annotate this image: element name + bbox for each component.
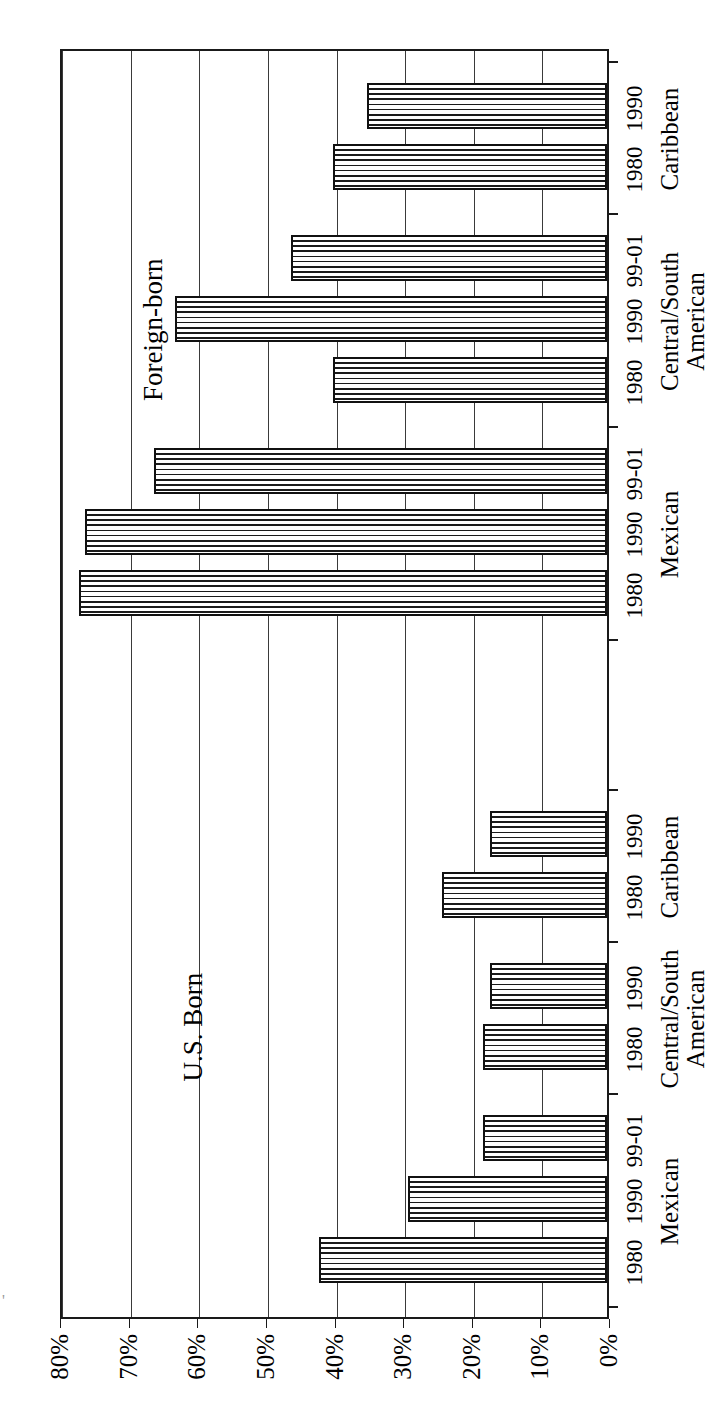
value-axis-tick [197, 1319, 198, 1328]
bar [490, 812, 607, 858]
value-axis-tick [540, 1319, 541, 1328]
bar [333, 145, 608, 191]
bar [291, 236, 607, 282]
category-period-label: 1990 [623, 65, 646, 152]
category-period-label: 1990 [623, 945, 646, 1032]
section-caption: Foreign-born [140, 240, 167, 420]
plot-area: U.S. BornForeign-born [60, 49, 609, 1319]
value-axis-label: 10% [527, 1334, 552, 1408]
value-axis-label: 70% [116, 1334, 141, 1408]
bar [442, 873, 607, 919]
bar [175, 297, 607, 343]
value-axis-label: 0% [596, 1334, 621, 1408]
category-period-label: 99-01 [623, 430, 646, 517]
category-axis-tick [609, 214, 618, 216]
bar [79, 571, 607, 617]
value-axis-tick [403, 1319, 404, 1328]
category-group-label: Caribbean [657, 24, 683, 254]
bar [483, 1116, 607, 1162]
bar [154, 449, 607, 495]
category-period-label: 99-01 [623, 1097, 646, 1184]
category-axis-tick [609, 942, 618, 944]
bar [408, 1177, 607, 1223]
value-axis-tick [60, 1319, 61, 1328]
value-axis-tick [472, 1319, 473, 1328]
value-axis-tick [335, 1319, 336, 1328]
gridline [62, 51, 63, 1317]
group-label-line: American [683, 207, 709, 437]
bar [490, 964, 607, 1010]
bar [483, 1025, 607, 1071]
value-axis-tick [129, 1319, 130, 1328]
bar [333, 358, 608, 404]
category-axis-tick [609, 1094, 618, 1096]
bar [367, 84, 607, 130]
value-axis-label: 80% [47, 1334, 72, 1408]
gridline [131, 51, 132, 1317]
category-axis-tick [609, 640, 618, 642]
section-caption: U.S. Born [180, 937, 207, 1117]
category-axis-tick [609, 1307, 618, 1309]
bar [319, 1238, 607, 1284]
rotated-chart-stage: 0%10%20%30%40%50%60%70%80% U.S. BornFore… [0, 0, 713, 1411]
value-axis-label: 50% [253, 1334, 278, 1408]
category-group-label: Caribbean [657, 752, 683, 982]
value-axis-label: 60% [184, 1334, 209, 1408]
gridline [199, 51, 200, 1317]
value-axis-label: 30% [390, 1334, 415, 1408]
category-period-label: 1990 [623, 793, 646, 880]
category-axis-tick [609, 427, 618, 429]
bar [85, 510, 607, 556]
value-axis-label: 40% [322, 1334, 347, 1408]
category-group-label: Mexican [657, 420, 683, 650]
category-period-label: 99-01 [623, 217, 646, 304]
value-axis-tick [609, 1319, 610, 1328]
group-label-line: American [683, 904, 709, 1134]
category-axis-tick [609, 790, 618, 792]
value-axis-tick [266, 1319, 267, 1328]
value-axis-label: 20% [459, 1334, 484, 1408]
gridline [268, 51, 269, 1317]
category-axis-tick [609, 62, 618, 64]
scan-artifact: ' [2, 1292, 5, 1310]
